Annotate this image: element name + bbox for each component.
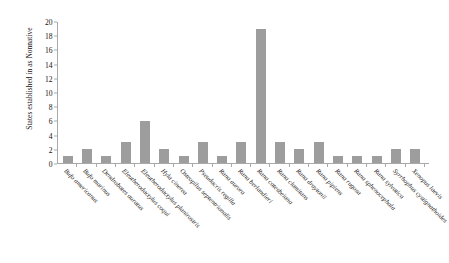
y-axis-tick-mark <box>54 135 57 136</box>
bar <box>275 142 285 163</box>
y-axis-tick-mark <box>54 121 57 122</box>
x-axis-label-slot: Rana aurora <box>213 166 232 262</box>
bar <box>372 156 382 163</box>
bar-slot <box>367 22 386 163</box>
bar <box>410 149 420 163</box>
x-axis-labels: Bufo americanusBufo marinusDendrobates a… <box>58 166 426 262</box>
bar-slot <box>58 22 77 163</box>
x-axis-label-slot: Rana rugosa <box>329 166 348 262</box>
bar-slot <box>309 22 328 163</box>
x-axis-label-slot: Dendrobates auratus <box>97 166 116 262</box>
y-axis-title: States established in as Nonnative <box>25 0 34 159</box>
x-axis-label-slot: Hyla cinerea <box>155 166 174 262</box>
y-axis-tick-mark <box>54 64 57 65</box>
x-axis-tick-label: Xenopus laevis <box>411 167 444 200</box>
bar <box>101 156 111 163</box>
x-axis-label-slot: Eleutherodactylus coqui <box>116 166 135 262</box>
x-axis-label-slot: Rana catesbeiana <box>252 166 271 262</box>
plot-area: 20181614121086420 <box>57 22 425 164</box>
bar <box>140 121 150 163</box>
x-axis-label-slot: Xenopus laevis <box>407 166 426 262</box>
y-axis-tick-mark <box>54 50 57 51</box>
y-axis-tick-mark <box>54 36 57 37</box>
bar-slot <box>97 22 116 163</box>
y-axis-tick-mark <box>54 149 57 150</box>
bar-slot <box>406 22 425 163</box>
x-axis-label-slot: Rana sphenocephala <box>349 166 368 262</box>
bar <box>82 149 92 163</box>
x-axis-label-slot: Eleutherodactylus planirostris <box>136 166 155 262</box>
y-axis-tick-mark <box>54 107 57 108</box>
x-axis-label-slot: Bufo marinus <box>77 166 96 262</box>
bar <box>236 142 246 163</box>
x-axis-label-slot: Rana clamitans <box>271 166 290 262</box>
bar <box>217 156 227 163</box>
x-axis-label-slot: Rana berlandieri <box>232 166 251 262</box>
bar-slot <box>290 22 309 163</box>
bar <box>159 149 169 163</box>
x-axis-label-slot: Rana sylvatica <box>368 166 387 262</box>
bar-slot <box>270 22 289 163</box>
bar-slot <box>348 22 367 163</box>
y-axis-tick-mark <box>54 78 57 79</box>
x-axis-label-slot: Rana pipiens <box>310 166 329 262</box>
bar <box>294 149 304 163</box>
bar-slot <box>328 22 347 163</box>
bar <box>198 142 208 163</box>
bar-slot <box>77 22 96 163</box>
x-axis-label-slot: Syrrhophus cystignathoides <box>387 166 406 262</box>
bar <box>314 142 324 163</box>
bar <box>391 149 401 163</box>
bar <box>179 156 189 163</box>
x-axis-label-slot: Pseudacris regilla <box>194 166 213 262</box>
y-axis-tick-mark <box>54 164 57 165</box>
y-axis-tick-mark <box>54 93 57 94</box>
bar <box>121 142 131 163</box>
bars-layer <box>58 22 425 163</box>
bar-slot <box>193 22 212 163</box>
bar-slot <box>116 22 135 163</box>
bar-slot <box>135 22 154 163</box>
bar <box>352 156 362 163</box>
bar-slot <box>174 22 193 163</box>
bar-slot <box>155 22 174 163</box>
bar <box>256 29 266 163</box>
bar-slot <box>213 22 232 163</box>
y-axis-tick-mark <box>54 22 57 23</box>
x-axis-label-slot: Bufo americanus <box>58 166 77 262</box>
bar <box>63 156 73 163</box>
bar-slot <box>386 22 405 163</box>
bar-slot <box>251 22 270 163</box>
bar <box>333 156 343 163</box>
x-axis-label-slot: Rana draytonii <box>291 166 310 262</box>
bar-slot <box>232 22 251 163</box>
x-axis-label-slot: Osteopilus septentrionalis <box>174 166 193 262</box>
